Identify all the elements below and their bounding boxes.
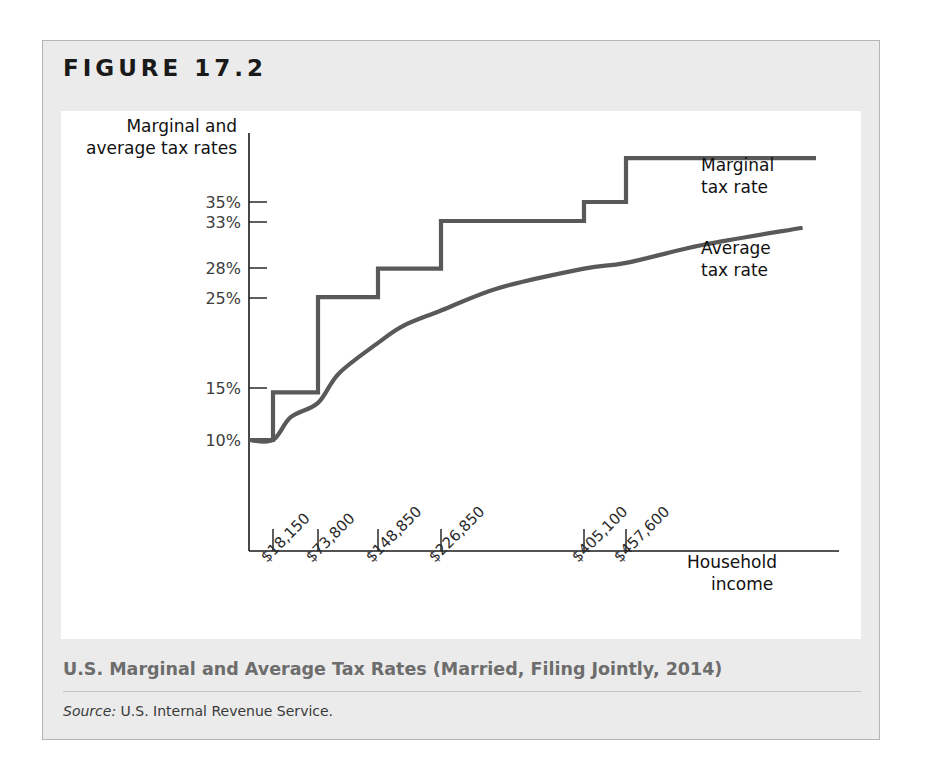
- y-tick-label-25: 25%: [205, 289, 241, 308]
- caption-divider: [63, 691, 861, 692]
- figure-number-label: FIGURE 17.2: [63, 55, 267, 81]
- x-tick-label-226850: $226,850: [425, 502, 488, 565]
- figure-card: FIGURE 17.2 Marginal and average tax rat…: [42, 40, 880, 740]
- figure-caption: U.S. Marginal and Average Tax Rates (Mar…: [63, 659, 863, 679]
- y-tick-label-33: 33%: [205, 213, 241, 232]
- average-label-line1: Average: [701, 238, 771, 258]
- figure-source: Source: U.S. Internal Revenue Service.: [63, 703, 333, 719]
- x-axis-tick-labels: $18,150 $73,800 $148,850 $226,850 $405,1…: [257, 502, 673, 565]
- y-tick-label-35: 35%: [205, 193, 241, 212]
- marginal-label-line2: tax rate: [701, 177, 768, 197]
- x-axis-title-line2: income: [711, 574, 773, 594]
- chart-plot-panel: Marginal and average tax rates 35% 33% 2…: [61, 111, 861, 639]
- y-axis-title-line2: average tax rates: [86, 138, 237, 158]
- average-label-line2: tax rate: [701, 260, 768, 280]
- marginal-label-line1: Marginal: [701, 155, 774, 175]
- x-tick-label-73800: $73,800: [302, 509, 359, 566]
- y-tick-label-10: 10%: [205, 431, 241, 450]
- marginal-tax-rate-line: [249, 158, 816, 440]
- x-tick-label-148850: $148,850: [362, 502, 425, 565]
- x-axis-title-line1: Household: [687, 552, 777, 572]
- source-label: Source:: [63, 703, 116, 719]
- y-tick-label-15: 15%: [205, 379, 241, 398]
- y-axis-ticks: 35% 33% 28% 25% 15% 10%: [205, 193, 267, 450]
- y-tick-label-28: 28%: [205, 259, 241, 278]
- tax-rates-chart: Marginal and average tax rates 35% 33% 2…: [61, 111, 861, 639]
- source-text: U.S. Internal Revenue Service.: [116, 703, 333, 719]
- y-axis-title-line1: Marginal and: [126, 116, 237, 136]
